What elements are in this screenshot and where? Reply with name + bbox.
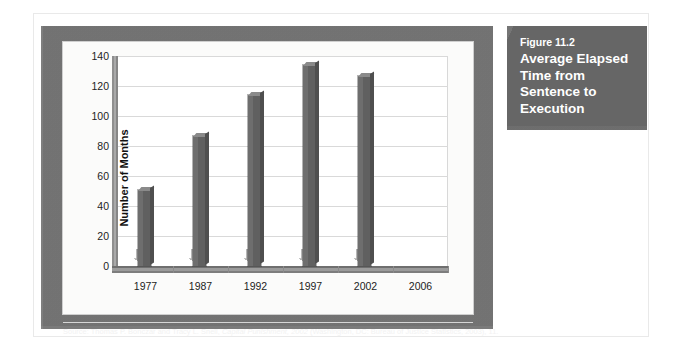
bar-body [138,190,151,267]
figure-number: Figure 11.2 [520,35,637,49]
x-axis-tick-label: 2006 [409,280,432,292]
y-axis-tick-label: 20 [97,230,109,242]
y-axis-tick-label: 40 [97,200,109,212]
y-axis-tick-label: 100 [91,110,109,122]
bar [248,95,264,266]
source-divider [63,322,473,323]
figure-page: 020406080100120140 197719871992199720022… [0,0,698,356]
x-axis-tick-label: 1977 [134,280,157,292]
bar [303,65,319,266]
figure-title-block: Figure 11.2 Average Elapsed Time from Se… [507,26,647,130]
y-axis-tick-label: 120 [91,80,109,92]
bar-side-face [315,61,319,264]
x-axis-tick [173,266,174,273]
bar-body [358,76,371,267]
bar-side-face [150,185,154,264]
plot-area: 020406080100120140 197719871992199720022… [118,56,448,266]
x-axis-tick [393,266,394,273]
gridline [118,176,448,177]
source-title-italic: Capital Punishment, 2002 [222,327,308,336]
source-note: Source: Thomas P. Bonczar and Tracy L. S… [63,327,493,336]
plot-background [118,56,448,266]
bar [138,190,154,267]
figure-title: Average Elapsed Time from Sentence to Ex… [520,51,637,117]
gridline [118,206,448,207]
y-axis-tick-label: 60 [97,170,109,182]
x-axis-tick [448,266,449,273]
x-axis-tick [338,266,339,273]
bar-body [193,136,206,267]
y-axis-title: Number of Months [118,129,130,226]
x-axis-tick [283,266,284,273]
bar-side-face [370,71,374,264]
bar [358,76,374,267]
gridline [118,86,448,87]
chart-card: 020406080100120140 197719871992199720022… [63,42,473,314]
gridline [118,146,448,147]
figure-panel: 020406080100120140 197719871992199720022… [41,26,493,329]
bar-side-face [205,131,209,264]
x-axis-line [112,266,449,273]
gridline [118,236,448,237]
bar [193,136,209,267]
x-axis-tick-label: 1992 [244,280,267,292]
y-axis-tick-label: 140 [91,50,109,62]
x-axis-tick [228,266,229,273]
x-axis-tick-label: 1987 [189,280,212,292]
source-suffix: (Washington, DC: Bureau of Justice Stati… [308,327,499,336]
bar-side-face [260,91,264,264]
gridline [118,116,448,117]
gridline [118,56,448,57]
bar-body [303,65,316,266]
x-axis-tick-label: 1997 [299,280,322,292]
bar-body [248,95,261,266]
x-axis-tick-label: 2002 [354,280,377,292]
y-axis-tick-label: 0 [103,260,109,272]
source-prefix: Source: Thomas P. Bonczar and Tracy L. S… [63,327,222,336]
y-axis-tick-label: 80 [97,140,109,152]
